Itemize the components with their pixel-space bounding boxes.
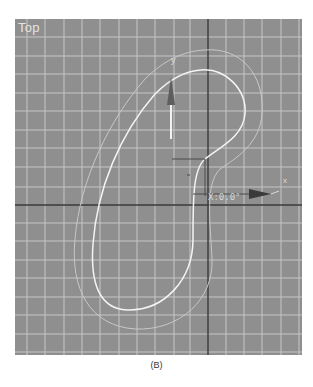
y-axis-label: y bbox=[171, 55, 176, 65]
viewport-label[interactable]: Top bbox=[18, 20, 40, 35]
top-viewport[interactable]: Top y x X:0.0° bbox=[15, 19, 302, 355]
x-axis-label: x bbox=[283, 176, 287, 185]
viewport-canvas[interactable] bbox=[15, 19, 302, 355]
figure-caption: (B) bbox=[0, 360, 313, 370]
rotation-readout: X:0.0° bbox=[208, 192, 241, 202]
inner-spline[interactable] bbox=[92, 70, 245, 310]
grid bbox=[15, 19, 302, 355]
